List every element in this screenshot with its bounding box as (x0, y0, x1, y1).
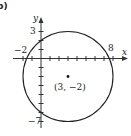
center-label: (3, −2) (54, 82, 86, 92)
tick-label-y-top: 3 (30, 26, 36, 36)
center-point (67, 75, 70, 78)
tick-label-x-right: 8 (108, 43, 114, 53)
tick-label-x-left: −2 (14, 45, 27, 55)
tick-label-y-bottom: −7 (28, 116, 42, 126)
x-axis-label: x (122, 47, 127, 57)
y-axis-label: y (32, 13, 39, 23)
panel-label: b) (0, 1, 8, 11)
y-axis-arrow-icon (39, 17, 44, 23)
circle-diagram: b) y x 3 −7 −2 8 (3, −2) (0, 0, 131, 136)
